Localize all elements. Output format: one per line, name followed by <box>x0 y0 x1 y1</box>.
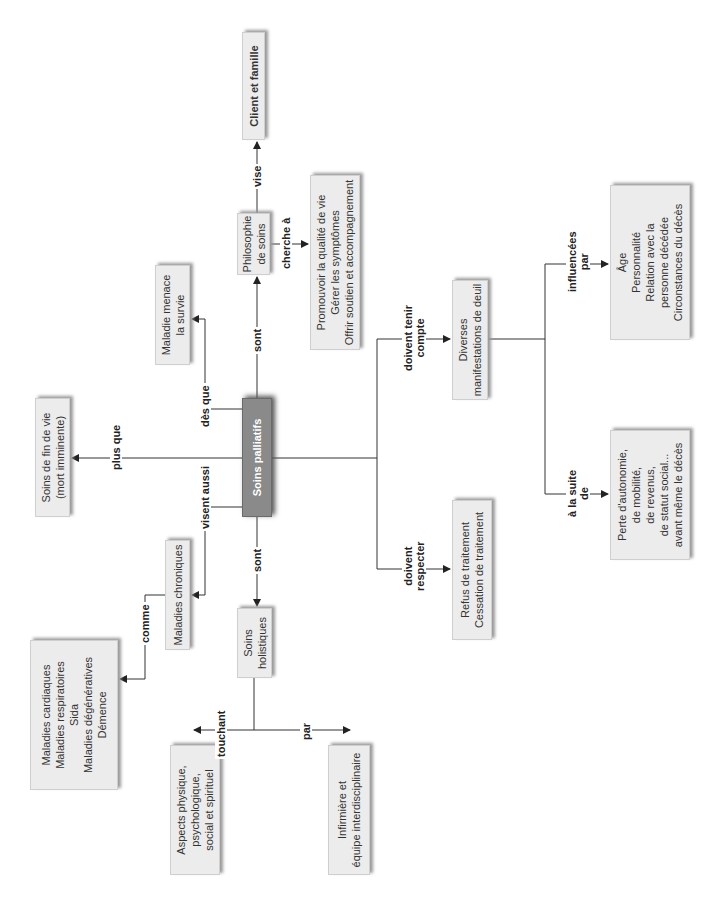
node-label: Aspects physique, <box>174 765 188 854</box>
node-label: de statut social... <box>657 454 671 537</box>
link-des-que: dès que <box>199 383 211 429</box>
link-par: par <box>300 721 312 742</box>
link-vise: vise <box>251 164 263 189</box>
node-label: Soins palliatifs <box>250 419 264 497</box>
link-sont-holistiques: sont <box>251 547 263 574</box>
concept-map-canvas: Soins palliatifs Soins de fin de vie (mo… <box>0 0 724 899</box>
link-label-line: de <box>578 470 590 517</box>
node-philosophie-de-soins: Philosophie de soins <box>237 213 270 275</box>
node-label: Sida <box>67 704 81 726</box>
node-label: avant même le décès <box>671 443 685 548</box>
node-label: holistiques <box>255 617 269 669</box>
node-client-et-famille: Client et famille <box>242 32 265 140</box>
link-label-line: doivent tenir <box>402 305 414 371</box>
node-liste-maladies: Maladies cardiaques Maladies respiratoir… <box>30 640 118 790</box>
node-label: de soins <box>254 224 268 265</box>
link-sont-philosophie: sont <box>251 327 263 354</box>
link-doivent-tenir-compte: doivent tenir compte <box>402 303 426 373</box>
link-touchant: touchant <box>215 709 227 759</box>
node-maladies-chroniques: Maladies chroniques <box>165 540 190 650</box>
node-label: personne décédée <box>657 217 671 308</box>
node-label: Infirmière et <box>335 781 349 839</box>
link-plus-que: plus que <box>110 423 122 472</box>
node-label: de mobilité, <box>629 467 643 523</box>
node-label: Soins <box>241 629 255 657</box>
node-label: de revenus, <box>643 466 657 523</box>
link-label-line: respecter <box>414 541 426 591</box>
link-label-line: par <box>578 231 590 292</box>
node-soins-holistiques: Soins holistiques <box>237 608 272 678</box>
node-label: Gérer les symptômes <box>328 210 342 315</box>
node-label: Offrir soutien et accompagnement <box>342 180 356 346</box>
node-label: (mort imminente) <box>53 416 67 499</box>
node-label: Perte d'autonomie, <box>615 449 629 541</box>
node-manifestations-deuil: Diverses manifestations de deuil <box>452 280 488 400</box>
node-label: Relation avec la <box>643 223 657 301</box>
node-label: Personnalité <box>629 232 643 293</box>
node-label: Diverses <box>456 319 470 362</box>
node-objectifs: Promouvoir la qualité de vie Gérer les s… <box>310 175 360 350</box>
link-a-la-suite-de: à la suite de <box>566 468 590 519</box>
link-influencees-par: influencées par <box>566 229 590 294</box>
node-label: Maladie menace <box>159 275 173 356</box>
node-label: psychologique, <box>188 773 202 846</box>
node-label: Maladies respiratoires <box>53 661 67 769</box>
link-cherche-a: cherche à <box>280 216 292 271</box>
node-facteurs: Âge Personnalité Relation avec la person… <box>610 185 690 340</box>
link-label-line: à la suite <box>566 470 578 517</box>
node-aspects: Aspects physique, psychologique, social … <box>170 745 220 875</box>
node-maladie-menace: Maladie menace la survie <box>155 265 190 365</box>
link-label-line: doivent <box>402 541 414 591</box>
node-label: Client et famille <box>247 45 261 126</box>
link-label-line: compte <box>414 305 426 371</box>
node-label: Circonstances du décès <box>671 204 685 321</box>
node-soins-palliatifs: Soins palliatifs <box>242 398 272 517</box>
node-label: Démence <box>95 691 109 738</box>
node-label: Promouvoir la qualité de vie <box>314 195 328 331</box>
node-label: Maladies chroniques <box>171 545 185 646</box>
node-label: Philosophie <box>240 216 254 273</box>
node-label: Maladies cardiaques <box>39 665 53 766</box>
link-label-line: influencées <box>566 231 578 292</box>
node-label: Âge <box>615 253 629 273</box>
node-label: la survie <box>173 295 187 336</box>
node-label: Soins de fin de vie <box>39 413 53 503</box>
node-label: Maladies dégénératives <box>81 657 95 773</box>
node-label: manifestations de deuil <box>470 284 484 397</box>
link-doivent-respecter: doivent respecter <box>402 539 426 593</box>
node-refus-traitement: Refus de traitement Cessation de traitem… <box>452 500 492 640</box>
node-label: Cessation de traitement <box>472 512 486 628</box>
node-label: Refus de traitement <box>458 522 472 618</box>
link-visent-aussi: visent aussi <box>199 464 211 531</box>
node-label: équipe interdisciplinaire <box>349 753 363 868</box>
node-perte: Perte d'autonomie, de mobilité, de reven… <box>610 430 690 560</box>
node-soins-fin-de-vie: Soins de fin de vie (mort imminente) <box>35 398 70 517</box>
node-infirmiere: Infirmière et équipe interdisciplinaire <box>328 745 370 875</box>
link-comme: comme <box>139 602 151 645</box>
node-label: social et spirituel <box>202 769 216 850</box>
